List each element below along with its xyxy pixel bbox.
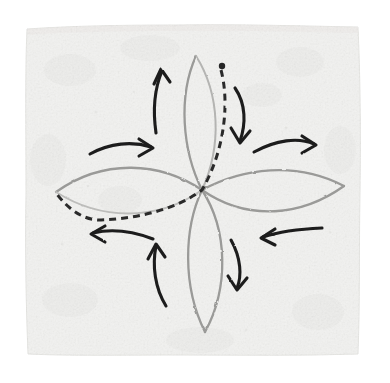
start-dot	[219, 63, 225, 69]
paper-sheet	[26, 25, 361, 356]
image-canvas: Hand-drawn four-petal rosette with direc…	[0, 0, 390, 383]
rosette-diagram	[0, 0, 390, 383]
